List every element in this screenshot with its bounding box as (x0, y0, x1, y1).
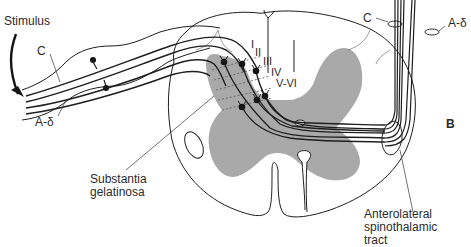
drg-neuron-a-delta (103, 85, 109, 91)
c-fiber-label-left: C (37, 45, 46, 58)
a-delta-label-left: A-δ (35, 116, 54, 129)
a-delta-label-right: A-δ (448, 17, 467, 30)
anterolateral-line-3: tract (364, 234, 437, 247)
stimulus-label: Stimulus (4, 15, 50, 28)
spinal-cord-diagram: Stimulus C A-δ C A-δ Substantia gelatino… (0, 0, 471, 247)
drg-neuron-c (90, 57, 96, 63)
anterolateral-tract-label: Anterolateral spinothalamic tract (364, 208, 437, 247)
substantia-line-2: gelatinosa (90, 186, 147, 199)
stimulus-arrow (11, 34, 18, 94)
lamina-i-label: I (251, 38, 254, 50)
panel-label: B (446, 118, 455, 131)
c-fiber-label-right: C (363, 12, 372, 25)
substantia-gelatinosa-label: Substantia gelatinosa (90, 173, 147, 199)
lamina-ii-label: II (255, 46, 261, 58)
lamina-v-vi-label: V-VI (276, 77, 297, 89)
